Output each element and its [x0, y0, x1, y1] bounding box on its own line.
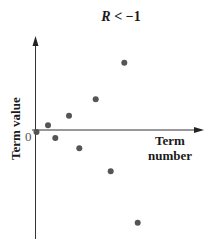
- x-axis-label: Term number: [140, 133, 200, 163]
- title-relation: < −1: [111, 9, 141, 24]
- x-axis-label-line1: Term: [140, 133, 200, 148]
- data-points: [34, 60, 141, 226]
- x-axis-label-line2: number: [140, 148, 200, 163]
- data-point: [108, 168, 114, 174]
- title-variable: R: [101, 9, 110, 24]
- chart-title: R < −1: [90, 9, 152, 25]
- data-point: [93, 96, 99, 102]
- chart-canvas: [0, 0, 217, 252]
- y-axis-arrow-icon: [33, 36, 39, 46]
- data-point: [45, 122, 51, 128]
- data-point: [135, 220, 141, 226]
- data-point: [52, 135, 58, 141]
- origin-label: 0: [25, 129, 32, 145]
- data-point: [34, 129, 40, 135]
- data-point: [66, 113, 72, 119]
- y-axis-label: Term value: [8, 100, 24, 160]
- data-point: [121, 60, 127, 66]
- data-point: [76, 145, 82, 151]
